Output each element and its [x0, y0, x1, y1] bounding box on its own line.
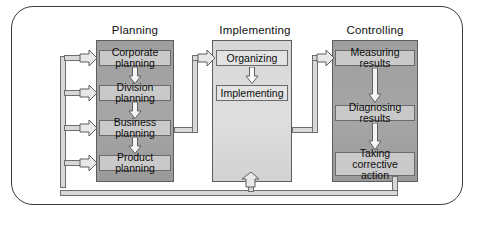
planning-item-business[interactable]: Business planning	[99, 120, 171, 136]
implementing-item-implementing[interactable]: Implementing	[216, 85, 288, 101]
controlling-item-measuring[interactable]: Measuring results	[335, 50, 415, 66]
implementing-item-organizing[interactable]: Organizing	[216, 50, 288, 66]
arrow-diagnosing-to-corrective-icon	[368, 123, 382, 150]
feedback-trunk-vertical	[60, 56, 66, 188]
arrow-measuring-to-diagnosing-icon	[368, 68, 382, 103]
controlling-item-diagnosing[interactable]: Diagnosing results	[335, 105, 415, 121]
arrow-into-product-icon	[80, 153, 98, 173]
controlling-item-corrective[interactable]: Taking corrective action	[335, 152, 415, 176]
arrow-into-business-icon	[80, 118, 98, 138]
column-header-controlling: Controlling	[320, 24, 430, 36]
arrow-business-to-product-icon	[128, 137, 142, 154]
diagram-canvas: Planning Implementing Controlling Corpor…	[0, 0, 478, 232]
arrow-corporate-to-division-icon	[128, 67, 142, 84]
arrow-into-organizing-icon	[198, 48, 216, 68]
arrow-into-division-icon	[80, 83, 98, 103]
arrow-organizing-to-implementing-icon	[245, 67, 259, 84]
column-header-planning: Planning	[85, 24, 185, 36]
arrow-into-measuring-icon	[317, 48, 335, 68]
planning-item-division[interactable]: Division planning	[99, 85, 171, 101]
column-header-implementing: Implementing	[200, 24, 310, 36]
planning-item-product[interactable]: Product planning	[99, 155, 171, 171]
feedback-bottom-rail	[60, 190, 398, 196]
arrow-into-implementing-bottom-icon	[242, 172, 260, 188]
arrow-division-to-business-icon	[128, 102, 142, 119]
arrow-into-corporate-icon	[80, 48, 98, 68]
planning-item-corporate[interactable]: Corporate planning	[99, 50, 171, 66]
